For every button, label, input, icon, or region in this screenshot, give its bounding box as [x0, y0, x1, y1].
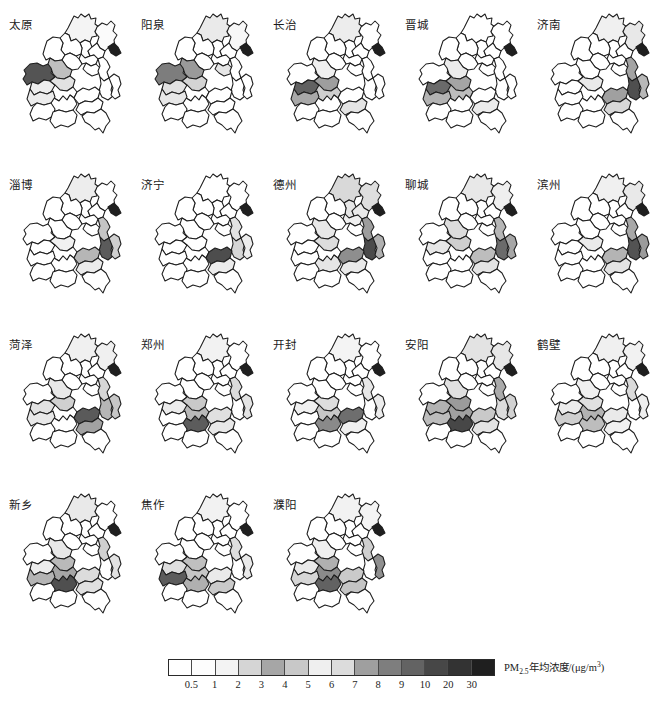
- map-region[interactable]: [446, 110, 473, 128]
- map-panel[interactable]: 安阳: [396, 320, 528, 480]
- map-region[interactable]: [43, 197, 65, 221]
- map-region[interactable]: [571, 357, 593, 381]
- map-region[interactable]: [50, 430, 77, 448]
- map-region[interactable]: [346, 269, 374, 293]
- map-region[interactable]: [610, 269, 638, 293]
- map-panel[interactable]: 济宁: [132, 160, 264, 320]
- map-panel[interactable]: 菏泽: [0, 320, 132, 480]
- map-panel[interactable]: 新乡: [0, 480, 132, 640]
- map-region[interactable]: [82, 269, 110, 293]
- map-region[interactable]: [214, 109, 242, 133]
- map-region[interactable]: [314, 430, 341, 448]
- map-region[interactable]: [571, 37, 593, 61]
- legend-swatch[interactable]: [239, 660, 262, 675]
- map-region[interactable]: [314, 590, 341, 608]
- legend-swatch[interactable]: [262, 660, 285, 675]
- map-panel[interactable]: 焦作: [132, 480, 264, 640]
- map-panel[interactable]: 濮阳: [264, 480, 396, 640]
- map-region[interactable]: [43, 517, 65, 541]
- map-region[interactable]: [610, 429, 638, 453]
- map-region[interactable]: [439, 197, 461, 221]
- map-region[interactable]: [346, 589, 374, 613]
- map-region[interactable]: [50, 590, 77, 608]
- map-region[interactable]: [571, 197, 593, 221]
- legend-swatch[interactable]: [332, 660, 355, 675]
- map-region[interactable]: [478, 109, 506, 133]
- map-region[interactable]: [182, 430, 209, 448]
- choropleth-map[interactable]: [286, 6, 394, 158]
- legend-swatch[interactable]: [402, 660, 425, 675]
- map-region[interactable]: [214, 589, 242, 613]
- map-region[interactable]: [182, 590, 209, 608]
- map-region[interactable]: [446, 430, 473, 448]
- map-region[interactable]: [439, 357, 461, 381]
- map-panel[interactable]: 济南: [528, 0, 660, 160]
- map-region[interactable]: [50, 270, 77, 288]
- map-region[interactable]: [307, 37, 329, 61]
- map-region[interactable]: [578, 270, 605, 288]
- legend-swatch[interactable]: [309, 660, 332, 675]
- legend-swatch[interactable]: [285, 660, 308, 675]
- map-region[interactable]: [82, 109, 110, 133]
- map-panel[interactable]: 太原: [0, 0, 132, 160]
- choropleth-map[interactable]: [550, 166, 658, 318]
- legend-swatch[interactable]: [448, 660, 471, 675]
- legend-swatch[interactable]: [379, 660, 402, 675]
- choropleth-map[interactable]: [22, 6, 130, 158]
- choropleth-map[interactable]: [550, 326, 658, 478]
- map-region[interactable]: [175, 197, 197, 221]
- map-region[interactable]: [182, 270, 209, 288]
- map-region[interactable]: [478, 429, 506, 453]
- map-region[interactable]: [175, 357, 197, 381]
- map-region[interactable]: [439, 37, 461, 61]
- legend-colorbar[interactable]: [168, 659, 495, 676]
- map-region[interactable]: [307, 517, 329, 541]
- map-region[interactable]: [43, 357, 65, 381]
- map-panel[interactable]: 鹤壁: [528, 320, 660, 480]
- choropleth-map[interactable]: [550, 6, 658, 158]
- map-region[interactable]: [346, 429, 374, 453]
- map-panel[interactable]: 长治: [264, 0, 396, 160]
- map-region[interactable]: [214, 269, 242, 293]
- map-panel[interactable]: 开封: [264, 320, 396, 480]
- map-region[interactable]: [307, 357, 329, 381]
- map-region[interactable]: [82, 589, 110, 613]
- choropleth-map[interactable]: [22, 486, 130, 638]
- map-panel[interactable]: 滨州: [528, 160, 660, 320]
- legend-swatch[interactable]: [425, 660, 448, 675]
- map-region[interactable]: [50, 110, 77, 128]
- choropleth-map[interactable]: [286, 326, 394, 478]
- map-region[interactable]: [578, 430, 605, 448]
- legend-swatch[interactable]: [355, 660, 378, 675]
- map-panel[interactable]: 聊城: [396, 160, 528, 320]
- map-region[interactable]: [82, 429, 110, 453]
- map-region[interactable]: [446, 270, 473, 288]
- choropleth-map[interactable]: [154, 166, 262, 318]
- map-panel[interactable]: 郑州: [132, 320, 264, 480]
- map-panel[interactable]: 晋城: [396, 0, 528, 160]
- map-region[interactable]: [175, 37, 197, 61]
- legend-swatch[interactable]: [216, 660, 239, 675]
- map-region[interactable]: [610, 109, 638, 133]
- choropleth-map[interactable]: [154, 6, 262, 158]
- legend-swatch[interactable]: [192, 660, 215, 675]
- legend-swatch[interactable]: [169, 660, 192, 675]
- choropleth-map[interactable]: [22, 326, 130, 478]
- choropleth-map[interactable]: [418, 6, 526, 158]
- choropleth-map[interactable]: [418, 326, 526, 478]
- map-panel[interactable]: 淄博: [0, 160, 132, 320]
- map-region[interactable]: [478, 269, 506, 293]
- map-panel[interactable]: 德州: [264, 160, 396, 320]
- choropleth-map[interactable]: [154, 486, 262, 638]
- map-region[interactable]: [182, 110, 209, 128]
- map-region[interactable]: [346, 109, 374, 133]
- map-region[interactable]: [314, 110, 341, 128]
- map-region[interactable]: [43, 37, 65, 61]
- choropleth-map[interactable]: [418, 166, 526, 318]
- choropleth-map[interactable]: [154, 326, 262, 478]
- legend-swatch[interactable]: [472, 660, 494, 675]
- choropleth-map[interactable]: [286, 166, 394, 318]
- choropleth-map[interactable]: [22, 166, 130, 318]
- map-region[interactable]: [307, 197, 329, 221]
- map-panel[interactable]: 阳泉: [132, 0, 264, 160]
